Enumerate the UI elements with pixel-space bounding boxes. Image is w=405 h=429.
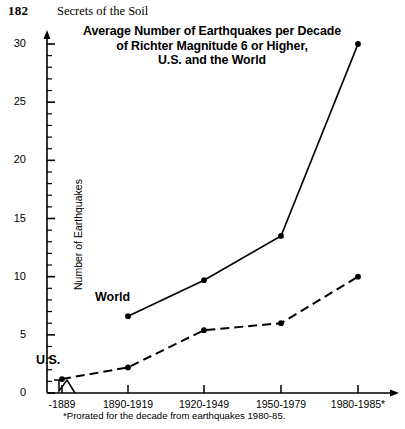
data-point [125,313,131,319]
y-tick-label: 10 [4,270,26,282]
data-point [355,274,361,280]
series-label-world: World [95,290,130,304]
y-tick-label: 30 [4,37,26,49]
data-point [278,233,284,239]
plot-area: Number of Earthquakes 051015202530 -1889… [0,0,405,429]
axis-break-mark [54,380,75,393]
earthquake-line-chart: Average Number of Earthquakes per Decade… [0,0,405,429]
series-line-world [128,44,358,316]
y-tick-label: 20 [4,153,26,165]
x-tick-label: 1980-1985* [313,398,403,410]
y-axis-arrow [44,30,51,39]
y-tick-label: 0 [4,386,26,398]
data-point [278,320,284,326]
y-tick-label: 15 [4,212,26,224]
y-tick-label: 5 [4,328,26,340]
data-point [355,41,361,47]
chart-canvas [0,0,405,429]
data-point [201,277,207,283]
y-tick-label: 25 [4,95,26,107]
data-point [59,376,65,382]
series-label-us: U.S. [36,353,60,367]
x-axis-arrow [390,390,399,397]
chart-footnote: *Prorated for the decade from earthquake… [63,410,285,421]
data-point [125,365,131,371]
series-group [59,41,361,382]
axes-group [44,30,399,396]
data-point [201,327,207,333]
